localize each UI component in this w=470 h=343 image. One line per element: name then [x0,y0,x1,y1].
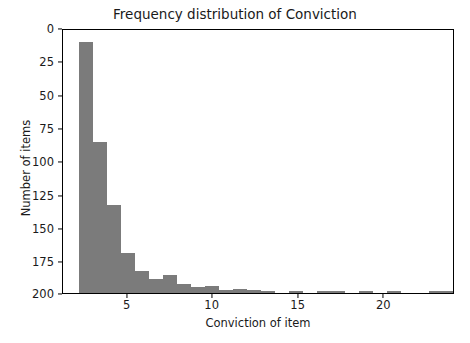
y-axis-tick-label: 150 [32,222,54,236]
histogram-bar [247,290,261,293]
x-axis-tick-label: 10 [204,298,219,312]
x-axis-tick-mark [211,294,212,298]
histogram-bar [163,275,177,293]
x-axis-tick-label: 5 [123,298,130,312]
x-axis-tick-mark [126,294,127,298]
histogram-bar [205,286,219,292]
x-axis-tick-label: 20 [376,298,391,312]
histogram-bar [121,253,135,292]
histogram-bar [219,290,233,293]
histogram-bar [79,42,93,293]
y-axis-tick-label: 50 [39,89,54,103]
y-axis-tick-label: 100 [32,155,54,169]
x-axis-label: Conviction of item [62,316,454,330]
histogram-bar [443,291,454,292]
histogram-bar [429,291,443,292]
x-axis-tick-mark [383,294,384,298]
page-title: Frequency distribution of Conviction [0,6,470,22]
histogram-bar [93,142,107,293]
histogram-bar [317,291,331,292]
histogram-bars [63,30,453,293]
x-axis-tick-mark [297,294,298,298]
y-axis-tick-label: 175 [32,255,54,269]
histogram-bar [177,284,191,293]
histogram-bar [359,291,373,292]
histogram-bar [135,271,149,293]
y-axis-tick-label: 75 [39,122,54,136]
histogram-bar [233,289,247,293]
histogram-bar [331,291,345,292]
histogram-bar [261,291,275,292]
histogram-bar [289,291,303,292]
histogram-bar [149,279,163,293]
y-axis-tick-label: 25 [39,55,54,69]
x-axis-tick-label: 15 [290,298,305,312]
plot-area [62,29,454,294]
histogram-bar [387,291,401,292]
y-axis-tick-label: 200 [32,287,54,301]
histogram-figure: Frequency distribution of Conviction 025… [0,0,470,343]
y-axis-tick-label: 125 [32,189,54,203]
histogram-bar [191,287,205,292]
y-axis-label: Number of items [19,83,33,253]
y-axis-tick-label: 0 [47,22,54,36]
histogram-bar [107,205,121,292]
